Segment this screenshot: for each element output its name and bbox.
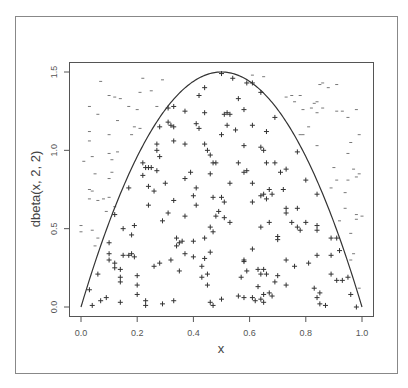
- y-tick-label: 0.0: [49, 301, 59, 314]
- y-tick-label: 1.0: [49, 144, 59, 157]
- x-tick-label: 0.2: [131, 328, 144, 338]
- x-tick-label: 1.0: [356, 328, 369, 338]
- y-tick-label: 0.5: [49, 222, 59, 235]
- x-axis-title: x: [218, 341, 225, 356]
- y-axis-title: dbeta(x, 2, 2): [28, 151, 43, 228]
- x-tick-label: 0.4: [187, 328, 200, 338]
- y-tick-label: 1.5: [49, 66, 59, 79]
- plot-area: [70, 63, 374, 317]
- x-tick-label: 0.0: [75, 328, 88, 338]
- chart-canvas: 0.00.20.40.60.81.0 0.00.51.01.5 x dbeta(…: [0, 0, 408, 388]
- x-tick-label: 0.6: [243, 328, 256, 338]
- x-tick-label: 0.8: [300, 328, 313, 338]
